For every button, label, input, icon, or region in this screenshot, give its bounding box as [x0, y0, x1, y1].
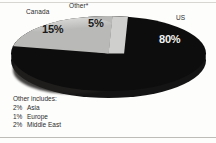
footnote-row: 2% Middle East	[13, 121, 61, 130]
top-divider-rule	[0, 2, 216, 3]
footnote-percent: 1%	[13, 113, 27, 122]
footnote-block: Other includes: 2% Asia 1% Europe 2% Mid…	[13, 95, 61, 130]
slice-label-us: US	[176, 14, 185, 21]
footnote-name: Middle East	[27, 121, 61, 130]
slice-value-other: 5%	[88, 17, 104, 29]
footnote-percent: 2%	[13, 104, 27, 113]
footnote-name: Asia	[27, 104, 40, 113]
bottom-divider-rule	[0, 137, 216, 138]
slice-value-us: 80%	[159, 33, 180, 45]
slice-value-canada: 15%	[42, 23, 63, 35]
footnote-row: 1% Europe	[13, 113, 61, 122]
pie-chart-figure: Canada Other* US 15% 5% 80% Other includ…	[0, 0, 216, 143]
footnote-title: Other includes:	[13, 95, 61, 104]
slice-label-canada: Canada	[26, 8, 49, 15]
footnote-percent: 2%	[13, 121, 27, 130]
pie-slice-canada-face[interactable]	[11, 16, 206, 91]
footnote-row: 2% Asia	[13, 104, 61, 113]
pie-top-face	[11, 16, 206, 91]
pie-graphic	[11, 16, 206, 98]
slice-label-other: Other*	[69, 2, 88, 9]
footnote-name: Europe	[27, 113, 48, 122]
